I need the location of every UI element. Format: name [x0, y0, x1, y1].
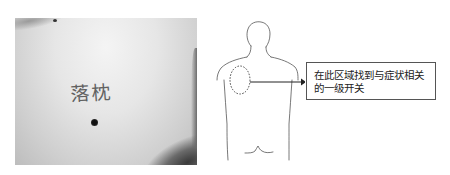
photo-mark — [53, 19, 57, 22]
arrow-head-icon — [301, 79, 305, 86]
back-photo: 落枕 — [15, 18, 197, 165]
acupoint-dot-icon — [91, 119, 98, 126]
photo-shadow-bottom-right — [133, 132, 197, 165]
callout-line-2: 的一级开关 — [314, 82, 429, 95]
callout-line-1: 在此区域找到与症状相关 — [314, 69, 429, 82]
handwritten-label: 落枕 — [69, 77, 113, 107]
photo-shadow-top-left — [15, 18, 66, 33]
back-figure-diagram — [215, 20, 305, 165]
region-marker-icon — [230, 66, 250, 94]
body-outline-icon — [217, 22, 298, 160]
callout-box: 在此区域找到与症状相关 的一级开关 — [306, 62, 436, 100]
